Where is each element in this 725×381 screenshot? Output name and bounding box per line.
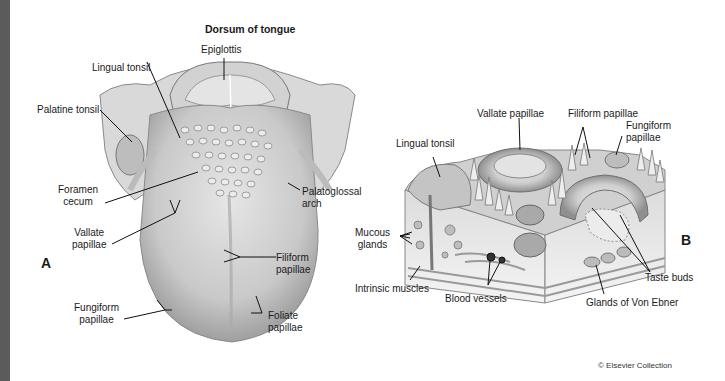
label-foliate-papillae: Foliate papillae [268, 310, 302, 334]
label-fungiform-papillae-b: Fungiform papillae [626, 120, 671, 144]
label-palatoglossal-arch: Palatoglossal arch [302, 186, 361, 210]
label-mucous-glands: Mucous glands [355, 227, 390, 251]
label-vallate-papillae-a: Vallate papillae [72, 227, 106, 251]
label-glands-von-ebner: Glands of Von Ebner [586, 297, 678, 309]
label-epiglottis: Epiglottis [201, 44, 242, 56]
label-blood-vessels: Blood vessels [445, 293, 507, 305]
label-foramen-cecum: Foramen cecum [58, 184, 98, 208]
label-intrinsic-muscles: Intrinsic muscles [355, 283, 429, 295]
label-vallate-papillae-b: Vallate papillae [477, 108, 544, 120]
label-filiform-papillae-b: Filiform papillae [568, 108, 638, 120]
panel-label-a: A [41, 255, 51, 271]
copyright-notice: © Elsevier Collection [598, 361, 672, 370]
tongue-section-drawing [405, 143, 665, 303]
label-palatine-tonsil: Palatine tonsil [37, 104, 99, 116]
label-fungiform-papillae-a: Fungiform papillae [74, 302, 119, 326]
label-lingual-tonsil-b: Lingual tonsil [396, 138, 454, 150]
figure-title: Dorsum of tongue [205, 23, 295, 35]
label-filiform-papillae-a: Filiform papillae [276, 252, 310, 276]
panel-label-b: B [681, 232, 691, 248]
label-taste-buds: Taste buds [645, 272, 693, 284]
label-lingual-tonsil-a: Lingual tonsil [92, 62, 150, 74]
